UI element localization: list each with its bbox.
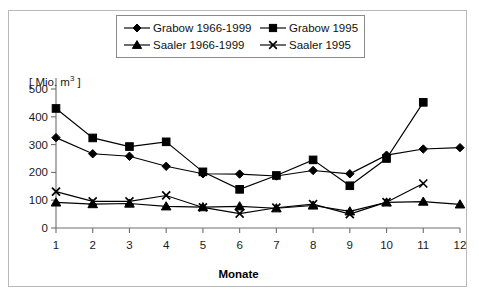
- legend-marker-square-icon: [259, 21, 287, 35]
- marker-square: [236, 186, 244, 194]
- x-tick-label: 2: [90, 239, 96, 251]
- legend-item[interactable]: Grabow 1966-1999: [123, 21, 249, 35]
- marker-diamond: [133, 24, 141, 32]
- series-1: [52, 133, 464, 180]
- marker-square: [309, 156, 317, 164]
- marker-diamond: [456, 143, 464, 151]
- marker-diamond: [419, 145, 427, 153]
- marker-diamond: [346, 170, 354, 178]
- legend-row: Grabow 1966-1999Grabow 1995: [123, 19, 358, 36]
- legend-label: Grabow 1995: [289, 22, 358, 34]
- x-tick-label: 1: [53, 239, 59, 251]
- chart-figure: 0100200300400500123456789101112 [ Mio. m…: [0, 0, 479, 301]
- legend-label: Saaler 1966-1999: [153, 39, 244, 51]
- x-tick-label: 11: [417, 239, 429, 251]
- series-3: [51, 197, 465, 215]
- y-axis-label-suffix: ]: [74, 76, 80, 88]
- marker-square: [419, 99, 427, 107]
- marker-x: [419, 180, 427, 188]
- series-group: [51, 99, 465, 219]
- y-tick-label: 200: [29, 166, 48, 178]
- legend-marker-triangle-icon: [123, 38, 151, 52]
- marker-diamond: [235, 170, 243, 178]
- y-tick-label: 0: [42, 222, 48, 234]
- y-tick-label: 400: [29, 111, 48, 123]
- marker-diamond: [162, 162, 170, 170]
- legend-row: Saaler 1966-1999Saaler 1995: [123, 36, 358, 53]
- x-axis-label: Monate: [9, 268, 468, 280]
- marker-triangle: [235, 202, 245, 210]
- marker-triangle: [418, 197, 428, 205]
- legend-label: Grabow 1966-1999: [153, 22, 251, 34]
- marker-triangle: [51, 198, 61, 206]
- marker-diamond: [125, 152, 133, 160]
- legend-item[interactable]: Grabow 1995: [259, 21, 358, 35]
- marker-diamond: [52, 133, 60, 141]
- x-tick-label: 12: [454, 239, 467, 251]
- legend-label: Saaler 1995: [289, 39, 351, 51]
- marker-square: [126, 143, 134, 151]
- chart-legend: Grabow 1966-1999Grabow 1995Saaler 1966-1…: [116, 15, 365, 58]
- marker-square: [273, 172, 281, 180]
- legend-item[interactable]: Saaler 1995: [259, 38, 351, 52]
- y-axis-label: [ Mio. m3 ]: [29, 74, 81, 88]
- legend-marker-diamond-icon: [123, 21, 151, 35]
- marker-diamond: [309, 166, 317, 174]
- x-tick-label: 8: [310, 239, 316, 251]
- x-tick-label: 4: [163, 239, 170, 251]
- marker-square: [383, 155, 391, 163]
- marker-square: [89, 134, 97, 142]
- marker-square: [199, 168, 207, 176]
- marker-square: [162, 138, 170, 146]
- x-tick-label: 7: [273, 239, 279, 251]
- marker-square: [52, 105, 60, 113]
- axes-group: 0100200300400500123456789101112: [29, 78, 467, 251]
- marker-diamond: [89, 150, 97, 158]
- marker-square: [269, 24, 276, 31]
- legend-marker-x-icon: [259, 38, 287, 52]
- y-tick-label: 300: [29, 139, 48, 151]
- x-tick-label: 10: [380, 239, 393, 251]
- series-line: [56, 202, 460, 212]
- x-tick-label: 5: [200, 239, 206, 251]
- legend-item[interactable]: Saaler 1966-1999: [123, 38, 249, 52]
- y-tick-label: 100: [29, 194, 48, 206]
- x-tick-label: 3: [126, 239, 132, 251]
- x-tick-label: 9: [347, 239, 353, 251]
- marker-square: [346, 182, 354, 190]
- x-tick-label: 6: [236, 239, 242, 251]
- y-axis-label-prefix: [ Mio. m: [29, 76, 70, 88]
- chart-frame: 0100200300400500123456789101112 [ Mio. m…: [8, 10, 467, 287]
